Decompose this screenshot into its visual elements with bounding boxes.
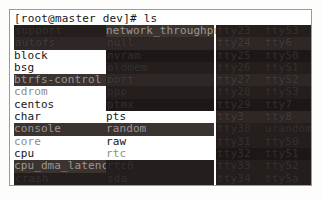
ls-entry: rtc0 [106, 160, 214, 172]
ls-output-column-3: tty23tty24tty25tty26tty27tty28tty29tty3t… [216, 25, 266, 185]
ls-entry: tty52 [264, 160, 311, 172]
ls-output-column-4: tty53tty6ttyS0ttyS1ttyS2ttyS3tty7tty8ura… [264, 25, 311, 185]
ls-entry: sda [106, 173, 214, 185]
ls-entry: cdrom [14, 86, 110, 98]
ls-entry: urandom [264, 123, 311, 135]
ls-entry: autofs [14, 37, 110, 49]
ls-entry: null [106, 37, 214, 49]
ls-entry: tty24 [216, 37, 266, 49]
ls-output-column-2: network_throughputnullnvramoldmemportppp… [106, 25, 214, 185]
ls-entry: tty34 [216, 173, 266, 185]
terminal-window[interactable]: [root@master dev]# ls supportautofsblock… [9, 9, 312, 186]
ls-entry: random [106, 123, 214, 135]
ls-entry: tty5a [264, 173, 311, 185]
ls-entry: cpu_dma_latency [14, 160, 110, 172]
ls-entry: tty30 [216, 123, 266, 135]
ls-entry: tty33 [216, 160, 266, 172]
ls-entry: ppp [106, 86, 214, 98]
screenshot-root: [root@master dev]# ls supportautofsblock… [0, 0, 322, 199]
ls-entry: console [14, 123, 110, 135]
ls-output-column-1: supportautofsblockbsgbtrfs-controlcdromc… [14, 25, 110, 185]
terminal-screen[interactable]: [root@master dev]# ls supportautofsblock… [10, 10, 311, 185]
ls-entry: tty6 [264, 37, 311, 49]
ls-entry: ttyS3 [264, 86, 311, 98]
ls-entry: tty28 [216, 86, 266, 98]
ls-entry: crash [14, 173, 110, 185]
